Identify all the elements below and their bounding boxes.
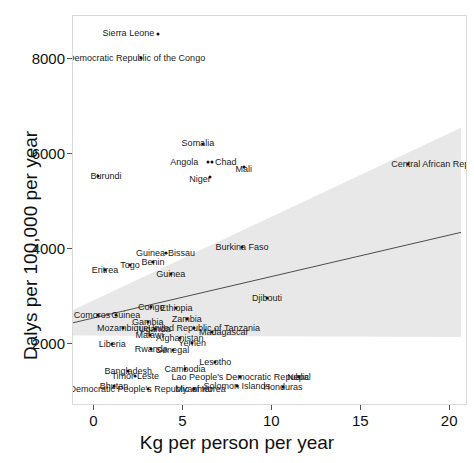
x-tick-mark bbox=[182, 405, 183, 410]
x-axis-label: Kg per person per year bbox=[0, 432, 474, 454]
x-tick-mark bbox=[271, 405, 272, 410]
plot-canvas bbox=[73, 16, 467, 405]
data-point bbox=[207, 161, 210, 164]
scatter-plot-figure: Sierra LeoneDemocratic Republic of the C… bbox=[0, 0, 474, 463]
x-tick-mark bbox=[449, 405, 450, 410]
y-tick-label: 8000 bbox=[32, 49, 65, 66]
data-point-label: Myanmar bbox=[175, 384, 213, 393]
data-point-label: Mali bbox=[236, 165, 253, 174]
data-point-label: Liberia bbox=[99, 340, 126, 349]
data-point-label: Honduras bbox=[263, 382, 302, 391]
data-point-label: Democratic Republic of the Congo bbox=[72, 53, 205, 62]
data-point-label: Sierra Leone bbox=[103, 29, 155, 38]
y-tick-mark bbox=[67, 248, 72, 249]
data-point-label: Benin bbox=[142, 258, 165, 267]
y-tick-mark bbox=[67, 58, 72, 59]
data-point-label: Central African Republic bbox=[391, 159, 467, 168]
x-tick-mark bbox=[360, 405, 361, 410]
y-tick-mark bbox=[67, 153, 72, 154]
data-point-label: Comoros bbox=[74, 310, 111, 319]
data-point bbox=[210, 161, 213, 164]
x-tick-label: 5 bbox=[178, 412, 186, 429]
x-tick-label: 10 bbox=[263, 412, 280, 429]
data-point-label: Djibouti bbox=[252, 293, 282, 302]
x-tick-label: 20 bbox=[441, 412, 458, 429]
data-point-label: Ethiopia bbox=[160, 304, 193, 313]
y-tick-mark bbox=[67, 343, 72, 344]
plot-panel: Sierra LeoneDemocratic Republic of the C… bbox=[72, 15, 467, 405]
data-point-label: Madagascar bbox=[199, 327, 249, 336]
data-point-label: Burkina Faso bbox=[216, 242, 269, 251]
data-point-label: Angola bbox=[170, 158, 198, 167]
x-tick-label: 0 bbox=[89, 412, 97, 429]
data-point-label: Guinea bbox=[156, 269, 185, 278]
data-point-label: Somalia bbox=[182, 139, 215, 148]
x-tick-mark bbox=[93, 405, 94, 410]
x-tick-label: 15 bbox=[352, 412, 369, 429]
data-point-label: Chad bbox=[215, 158, 237, 167]
data-point-label: Senegal bbox=[156, 346, 189, 355]
data-point-label: Niger bbox=[189, 174, 211, 183]
data-point-label: Eritrea bbox=[92, 265, 119, 274]
data-point-label: Togo bbox=[120, 261, 140, 270]
data-point-label: Timor-Leste bbox=[111, 372, 159, 381]
data-point-label: Burundi bbox=[90, 171, 121, 180]
data-point bbox=[157, 33, 160, 36]
y-axis-label: Dalys per 100,000 per year bbox=[20, 131, 42, 360]
